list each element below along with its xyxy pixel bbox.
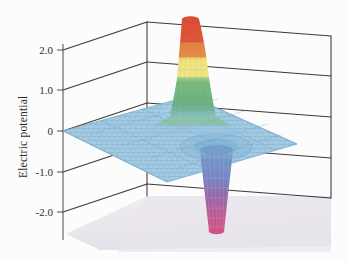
surface-plot-svg: 2.0 1.0 0 -1.0 -2.0 Electric potential	[0, 0, 347, 261]
figure-canvas: 2.0 1.0 0 -1.0 -2.0 Electric potential	[0, 0, 347, 261]
scan-tint	[0, 0, 347, 261]
